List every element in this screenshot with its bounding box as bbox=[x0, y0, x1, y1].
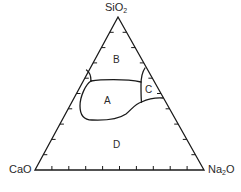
ternary-diagram: SiO2 CaO Na2O B A C D bbox=[0, 0, 241, 192]
vertex-bottom-right-formula: Na bbox=[208, 163, 222, 175]
vertex-top-formula: SiO bbox=[105, 1, 123, 13]
boundary-left-arc bbox=[87, 70, 92, 81]
boundary-c-d bbox=[142, 98, 164, 102]
vertex-label-bottom-left: CaO bbox=[9, 164, 32, 175]
vertex-label-bottom-right: Na2O bbox=[208, 164, 235, 175]
vertex-bottom-right-suffix: O bbox=[226, 163, 235, 175]
vertex-label-top: SiO2 bbox=[105, 2, 127, 13]
region-label-b: B bbox=[113, 55, 120, 65]
vertex-bottom-left-formula: CaO bbox=[9, 163, 32, 175]
ternary-diagram-graphic bbox=[0, 0, 241, 192]
region-label-c: C bbox=[145, 85, 152, 95]
boundary-a-b bbox=[91, 80, 141, 82]
vertex-top-subscript: 2 bbox=[123, 7, 127, 14]
region-label-d: D bbox=[113, 140, 120, 150]
region-label-a: A bbox=[104, 96, 111, 106]
